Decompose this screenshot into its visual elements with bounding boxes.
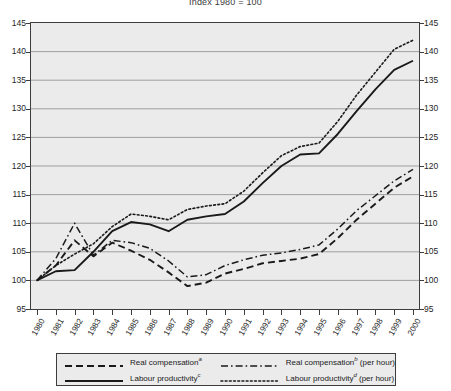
y-tick-label: 110 — [0, 219, 26, 227]
y-tick-mark — [420, 137, 424, 138]
x-tick-label: 1986 — [139, 317, 160, 344]
series-line-3 — [37, 61, 413, 281]
y-tick-label: 125 — [424, 133, 450, 141]
legend-item[interactable]: Real compensationa — [57, 356, 213, 367]
series-line-4 — [37, 40, 413, 280]
y-tick-label: 125 — [0, 133, 26, 141]
series-line-2 — [37, 169, 413, 280]
y-tick-label: 100 — [0, 276, 26, 284]
x-tick-mark — [375, 310, 376, 315]
legend-swatch-solid-icon — [63, 372, 125, 382]
x-tick-label: 1996 — [327, 317, 348, 344]
y-tick-label: 130 — [0, 104, 26, 112]
x-tick-mark — [93, 310, 94, 315]
x-tick-label: 1991 — [233, 317, 254, 344]
y-tick-mark — [26, 52, 30, 53]
x-tick-mark — [263, 310, 264, 315]
y-tick-label: 135 — [0, 76, 26, 84]
y-tick-mark — [420, 195, 424, 196]
x-tick-mark — [56, 310, 57, 315]
y-tick-mark — [420, 80, 424, 81]
x-tick-label: 1993 — [270, 317, 291, 344]
y-tick-label: 110 — [424, 219, 450, 227]
y-tick-mark — [26, 109, 30, 110]
y-tick-mark — [26, 280, 30, 281]
chart-title: Index 1980 = 100 — [0, 0, 451, 7]
y-tick-mark — [420, 252, 424, 253]
x-tick-label: 1990 — [214, 317, 235, 344]
y-tick-label: 140 — [424, 47, 450, 55]
chart-root: Index 1980 = 100 95100105110115120125130… — [0, 0, 451, 391]
x-tick-label: 1980 — [26, 317, 47, 344]
legend-swatch-dash-dot-icon — [219, 357, 281, 367]
x-tick-label: 1997 — [346, 317, 367, 344]
legend-item[interactable]: Real compensationb (per hour) — [213, 356, 395, 367]
chart-canvas — [31, 23, 419, 309]
y-tick-label: 100 — [424, 276, 450, 284]
y-tick-label: 130 — [424, 104, 450, 112]
legend-item[interactable]: Labour productivityd (per hour) — [213, 372, 395, 383]
x-tick-mark — [357, 310, 358, 315]
x-tick-mark — [187, 310, 188, 315]
y-tick-mark — [26, 223, 30, 224]
x-tick-label: 1985 — [120, 317, 141, 344]
chart-legend: Real compensationaReal compensationb (pe… — [56, 353, 396, 386]
x-tick-mark — [225, 310, 226, 315]
x-tick-label: 1988 — [176, 317, 197, 344]
x-tick-mark — [319, 310, 320, 315]
y-tick-label: 140 — [0, 47, 26, 55]
y-tick-mark — [420, 23, 424, 24]
y-tick-mark — [420, 166, 424, 167]
x-tick-mark — [413, 310, 414, 315]
x-tick-label: 1998 — [364, 317, 385, 344]
y-tick-mark — [420, 223, 424, 224]
x-tick-mark — [206, 310, 207, 315]
series-line-1 — [37, 176, 413, 286]
x-tick-label: 1994 — [289, 317, 310, 344]
legend-label: Labour productivityc — [130, 372, 201, 383]
x-tick-mark — [37, 310, 38, 315]
y-tick-label: 135 — [424, 76, 450, 84]
x-tick-mark — [394, 310, 395, 315]
y-tick-mark — [420, 52, 424, 53]
legend-swatch-dashed-icon — [63, 357, 125, 367]
x-tick-mark — [244, 310, 245, 315]
x-tick-mark — [169, 310, 170, 315]
x-tick-mark — [150, 310, 151, 315]
plot-area — [30, 22, 420, 310]
y-tick-mark — [26, 80, 30, 81]
y-tick-label: 120 — [0, 162, 26, 170]
x-tick-mark — [131, 310, 132, 315]
x-tick-label: 1981 — [45, 317, 66, 344]
x-tick-label: 1984 — [101, 317, 122, 344]
x-tick-label: 2000 — [402, 317, 423, 344]
y-tick-mark — [420, 109, 424, 110]
legend-label: Real compensationb (per hour) — [286, 356, 395, 367]
legend-label: Labour productivityd (per hour) — [286, 372, 394, 383]
x-tick-label: 1999 — [383, 317, 404, 344]
x-tick-label: 1992 — [252, 317, 273, 344]
y-tick-label: 115 — [0, 190, 26, 198]
x-tick-label: 1995 — [308, 317, 329, 344]
x-tick-label: 1987 — [158, 317, 179, 344]
y-tick-mark — [26, 23, 30, 24]
y-tick-label: 105 — [424, 247, 450, 255]
x-tick-label: 1982 — [64, 317, 85, 344]
x-tick-mark — [300, 310, 301, 315]
y-tick-label: 115 — [424, 190, 450, 198]
legend-label: Real compensationa — [130, 356, 202, 367]
y-tick-label: 120 — [424, 162, 450, 170]
y-tick-mark — [26, 166, 30, 167]
y-tick-mark — [26, 195, 30, 196]
legend-swatch-dotted-icon — [219, 372, 281, 382]
x-tick-mark — [281, 310, 282, 315]
y-tick-mark — [420, 280, 424, 281]
y-tick-mark — [26, 137, 30, 138]
legend-item[interactable]: Labour productivityc — [57, 372, 213, 383]
y-tick-label: 105 — [0, 247, 26, 255]
x-tick-label: 1989 — [195, 317, 216, 344]
x-tick-mark — [338, 310, 339, 315]
x-tick-mark — [112, 310, 113, 315]
x-tick-mark — [75, 310, 76, 315]
x-axis: 1980198119821983198419851986198719881989… — [0, 310, 451, 355]
